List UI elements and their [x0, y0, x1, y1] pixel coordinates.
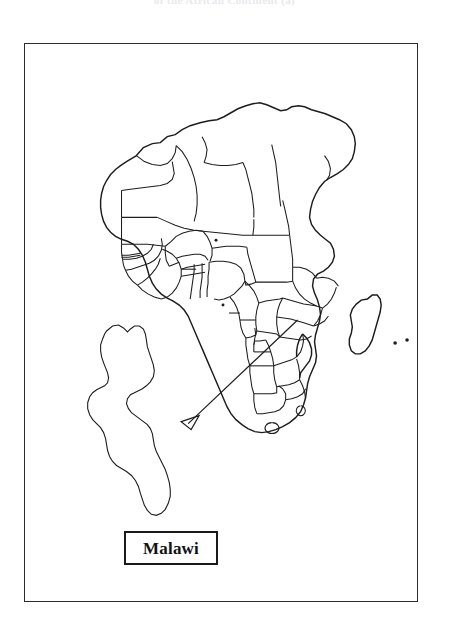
country-borders-west [122, 217, 256, 300]
country-borders-central-east [229, 235, 338, 366]
map-frame [24, 43, 418, 602]
africa-map-canvas [25, 44, 417, 601]
indian-ocean-islets [393, 338, 409, 345]
gulf-of-guinea-islets [215, 239, 225, 307]
africa-mainland-coastline [101, 103, 356, 433]
malawi-callout-arrow [181, 320, 297, 430]
caption-box: Malawi [124, 531, 218, 565]
country-borders-south [250, 334, 312, 434]
country-borders-north [122, 137, 331, 236]
caption-label: Malawi [143, 540, 199, 557]
figure-title: of the African Continent (a) [0, 0, 449, 6]
madagascar [349, 295, 381, 354]
malawi-enlarged-outline [88, 325, 171, 515]
